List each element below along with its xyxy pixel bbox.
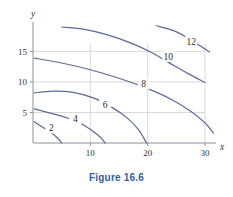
contour-label-6: 6 bbox=[103, 100, 108, 110]
y-tick-label: 5 bbox=[23, 108, 28, 118]
y-tick-label: 10 bbox=[18, 77, 28, 87]
x-tick-label: 10 bbox=[86, 148, 96, 158]
contour-label-10: 10 bbox=[164, 52, 174, 62]
x-tick-label: 30 bbox=[201, 148, 211, 158]
contour-curve-8 bbox=[34, 58, 213, 133]
y-axis-label: y bbox=[30, 9, 36, 19]
y-tick-label: 15 bbox=[18, 47, 28, 57]
contour-plot: 10203051015 24681012 x y bbox=[0, 0, 233, 175]
contour-label-2: 2 bbox=[49, 123, 54, 133]
figure-container: 10203051015 24681012 x y Figure 16.6 bbox=[0, 0, 233, 197]
gridlines-group bbox=[33, 44, 205, 143]
contour-curve-12 bbox=[156, 26, 209, 52]
x-tick-label: 20 bbox=[143, 148, 153, 158]
tick-labels-group: 10203051015 bbox=[18, 47, 210, 158]
x-axis-label: x bbox=[219, 142, 225, 152]
contour-label-8: 8 bbox=[141, 79, 146, 89]
figure-caption: Figure 16.6 bbox=[0, 172, 233, 183]
contour-label-12: 12 bbox=[186, 37, 196, 47]
contour-label-4: 4 bbox=[73, 114, 78, 124]
